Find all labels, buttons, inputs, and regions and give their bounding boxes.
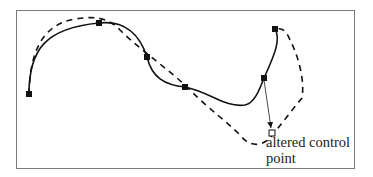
label-line-1: altered control: [266, 134, 350, 150]
control-point-marker: [261, 75, 267, 81]
control-point-marker: [96, 20, 102, 26]
control-point-marker: [182, 84, 188, 90]
bezier-curve-diagram: altered control point: [0, 0, 373, 177]
displacement-arrow: [264, 80, 271, 128]
label-line-2: point: [266, 150, 350, 166]
control-point-marker: [144, 54, 150, 60]
control-point-marker: [26, 91, 32, 97]
original-curve: [29, 23, 277, 106]
control-point-marker: [272, 26, 278, 32]
altered-control-point-label: altered control point: [266, 134, 350, 166]
